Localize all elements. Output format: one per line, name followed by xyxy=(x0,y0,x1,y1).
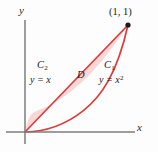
equation-label-c2: y = x xyxy=(30,75,51,85)
figure-region-between-curves: y x C2 y = x C1 y = x2 D (1, 1) xyxy=(0,0,158,152)
curve-label-c1-subscript: 1 xyxy=(111,64,115,72)
curve-label-c2-subscript: 2 xyxy=(44,64,48,72)
curve-label-c1-letter: C xyxy=(104,59,111,70)
equation-label-c1-base: y = x xyxy=(99,74,120,85)
equation-label-c1-exponent: 2 xyxy=(120,74,124,82)
equation-label-c1: y = x2 xyxy=(99,75,123,85)
curve-label-c1: C1 xyxy=(104,60,115,72)
point-label-1-1: (1, 1) xyxy=(109,7,132,18)
x-axis-label: x xyxy=(137,122,142,133)
point-marker-1-1 xyxy=(125,22,130,27)
curve-label-c2-letter: C xyxy=(37,59,44,70)
curve-label-c2: C2 xyxy=(37,60,48,72)
y-axis-label: y xyxy=(19,5,24,16)
region-label-d: D xyxy=(77,70,85,81)
